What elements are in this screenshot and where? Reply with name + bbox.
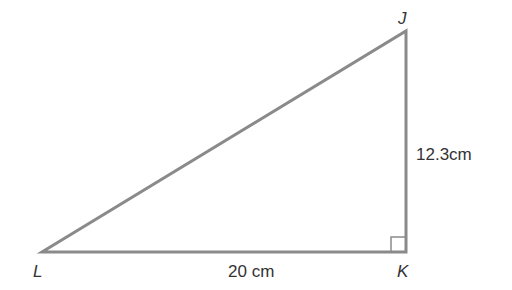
vertex-label-j: J [398,10,407,27]
vertex-label-l: L [33,263,42,280]
right-angle-marker [391,237,406,252]
side-label-lk: 20 cm [228,263,274,280]
vertex-label-k: K [397,263,408,280]
triangle-ljk [42,31,406,252]
side-label-kj: 12.3cm [416,146,472,163]
